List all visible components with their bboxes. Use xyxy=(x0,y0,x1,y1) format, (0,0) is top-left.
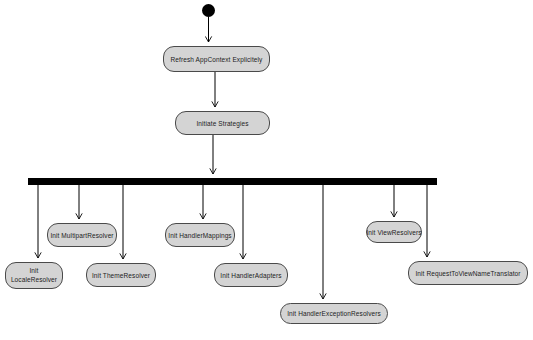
activity-diagram-canvas: Refresh AppContext Explicitely Initiate … xyxy=(0,0,533,340)
activity-label: Init MultipartResolver xyxy=(50,232,113,239)
activity-init-handler-adapters: Init HandlerAdapters xyxy=(214,263,288,287)
activity-label: Refresh AppContext Explicitely xyxy=(171,56,263,63)
initial-node xyxy=(202,4,215,17)
activity-label: Initiate Strategies xyxy=(196,120,248,127)
activity-init-theme-resolver: Init ThemeResolver xyxy=(86,263,156,287)
activity-label: Init ThemeResolver xyxy=(92,272,150,279)
activity-label: Init HandlerMappings xyxy=(168,232,231,239)
activity-label: Init RequestToViewNameTranslator xyxy=(415,270,520,277)
activity-label: Init LocaleResolver xyxy=(9,267,59,285)
activity-initiate-strategies: Initiate Strategies xyxy=(175,111,270,135)
activity-refresh-app-context: Refresh AppContext Explicitely xyxy=(163,46,270,72)
fork-bar xyxy=(28,178,437,185)
activity-label: Init HandlerExceptionResolvers xyxy=(287,310,381,317)
activity-init-locale-resolver: Init LocaleResolver xyxy=(5,262,63,289)
activity-init-handler-mappings: Init HandlerMappings xyxy=(165,223,235,247)
activity-init-handler-exception-resolvers: Init HandlerExceptionResolvers xyxy=(280,303,388,324)
activity-label: Init ViewResolvers xyxy=(366,229,421,236)
activity-init-multipart-resolver: Init MultipartResolver xyxy=(47,223,117,247)
activity-label: Init HandlerAdapters xyxy=(220,272,281,279)
activity-init-request-to-view-name-translator: Init RequestToViewNameTranslator xyxy=(408,261,528,285)
activity-init-view-resolvers: Init ViewResolvers xyxy=(366,221,422,243)
